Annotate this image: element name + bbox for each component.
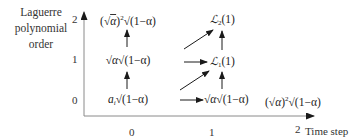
node-argument: (1) [222,13,235,25]
node-t0-order0: ai√(1−α) [108,93,148,110]
node-t2-order0: (√α)2√(1−α) [265,93,321,109]
node-prefix: (√ [265,96,275,108]
node-t0-order2: (√α)2√(1−α) [100,12,156,28]
y-axis-title-line: order [8,36,74,52]
node-argument: (1) [222,55,235,67]
node-prefix: (√ [100,15,110,27]
node-t1-order2: ℒ2(1) [210,13,235,30]
x-tick-label: 0 [129,126,135,138]
node-variable: α [110,15,116,27]
y-axis-title: Laguerre polynomial order [8,4,74,52]
node-t1-order1: ℒ1(1) [210,55,235,72]
x-axis-title: Time step [305,125,348,137]
node-t0-order1: √α√(1−α) [106,54,151,67]
x-tick-label: 1 [209,126,215,138]
node-sqrt-body: (1−α) [223,93,249,105]
node-sqrt-body: (1−α) [122,93,148,105]
node-sqrt-body: (1−α) [124,54,150,66]
laguerre-symbol: ℒ [210,13,218,26]
node-t1-order0: √α√(1−α) [204,93,249,106]
arrow-t0-o1-to-t1-o2 [184,30,213,49]
x-tick-label: 2 [295,123,301,135]
laguerre-symbol: ℒ [210,55,218,68]
node-sqrt-body: (1−α) [295,96,321,108]
y-axis-title-line: polynomial [8,20,74,36]
y-tick-label: 0 [72,94,78,106]
y-axis-title-line: Laguerre [8,4,74,20]
node-sqrt-body: (1−α) [130,15,156,27]
y-tick-label: 1 [72,53,78,65]
y-tick-label: 2 [72,13,78,25]
arrow-t0-o0-to-t1-o1 [180,71,209,90]
